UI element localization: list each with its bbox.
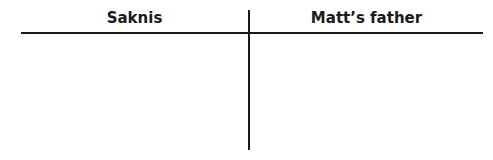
column-header-matts-father: Matt’s father [250, 9, 483, 27]
horizontal-divider [21, 32, 483, 34]
vertical-divider [248, 10, 250, 150]
column-header-saknis: Saknis [21, 9, 248, 27]
